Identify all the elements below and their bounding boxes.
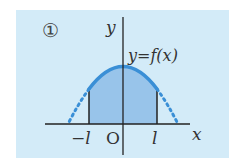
curve-dotted-right xyxy=(157,89,178,124)
graph-svg: ① y y=f(x) −l O l x xyxy=(0,0,229,166)
curve-label: y=f(x) xyxy=(127,46,178,65)
curve-dotted-left xyxy=(68,89,89,124)
pos-l-label: l xyxy=(152,128,157,148)
x-axis-label: x xyxy=(192,124,202,144)
origin-label: O xyxy=(106,128,120,148)
y-axis-label: y xyxy=(105,17,116,37)
neg-l-label: −l xyxy=(71,128,91,148)
figure-number-label: ① xyxy=(42,19,59,41)
